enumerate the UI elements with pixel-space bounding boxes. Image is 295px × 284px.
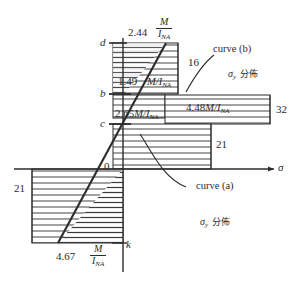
sigma-axis-arrow [268, 167, 274, 172]
fraction-numerator-M-bottom: M [90, 244, 106, 255]
stress-label-web-top: 2.65M/INA [115, 104, 158, 121]
sigma-subscript-a: y [205, 221, 208, 229]
stress-label-top-flange-bottom-coef: 1.49 [118, 76, 137, 87]
point-label-d: d [100, 37, 106, 48]
annotation-curve-b: curve (b) [213, 44, 251, 55]
stress-label-top-flange-bottom-unit: M/INA [147, 77, 171, 89]
dimension-label-16: 16 [188, 57, 199, 68]
stress-label-bottom-unit: M INA [90, 244, 106, 268]
point-label-k: k [126, 239, 131, 250]
annotation-curve-b-note: σy 分佈 [228, 64, 258, 81]
dimension-label-21-mid: 21 [216, 139, 227, 150]
stress-label-top-flange-top-unit: M INA [156, 17, 172, 41]
sigma-axis-label: σ [278, 162, 283, 173]
fraction-numerator-M: M [156, 17, 172, 28]
stress-label-top-flange-top-coef: 2.44 [128, 27, 147, 38]
fraction-denominator-I: INA [156, 28, 172, 41]
annotation-curve-a: curve (a) [196, 181, 234, 192]
point-label-b: b [100, 88, 106, 99]
distribution-text-b: 分佈 [240, 69, 258, 79]
point-label-c: c [100, 118, 105, 129]
block-mid [113, 124, 211, 169]
stress-label-web-lower: 4.48M/INA [186, 98, 229, 115]
stress-coef-web-lower: 4.48 [186, 101, 205, 113]
origin-label: 0 [104, 161, 110, 172]
dimension-label-21-lower: 21 [14, 183, 25, 194]
sigma-subscript-b: y [233, 73, 236, 81]
distribution-text-a: 分佈 [212, 217, 230, 227]
annotation-curve-a-note: σy 分佈 [200, 212, 230, 229]
stress-coef-web-top: 2.65 [115, 107, 134, 119]
dimension-label-32: 32 [276, 104, 287, 115]
fraction-denominator-I-bottom: INA [90, 255, 106, 268]
stress-label-bottom-coef: 4.67 [56, 251, 75, 262]
stress-distribution-figure: 2.44 M INA d 16 curve (b) σy 分佈 1.49 M/I… [0, 0, 295, 284]
